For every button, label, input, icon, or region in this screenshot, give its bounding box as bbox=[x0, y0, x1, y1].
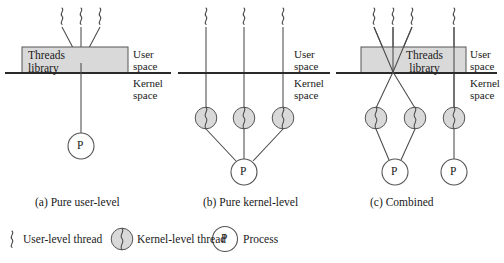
squiggle-icon bbox=[80, 8, 82, 24]
panel-caption-c: (c) Combined bbox=[370, 196, 434, 208]
user-space-line1: User bbox=[470, 48, 504, 60]
user-space-line2: space bbox=[133, 60, 179, 72]
legend-label-kernel-level-thread: Kernel-level thread bbox=[137, 233, 226, 245]
kernel-space-label: Kernel space bbox=[470, 77, 504, 102]
process-label: P bbox=[450, 165, 456, 177]
kernel-thread-circle-icon bbox=[443, 107, 465, 129]
kernel-space-line1: Kernel bbox=[133, 77, 179, 89]
threads-library-line1: Threads bbox=[406, 49, 443, 62]
squiggle-icon bbox=[243, 8, 245, 24]
squiggle-icon bbox=[373, 8, 375, 24]
kernel-thread-link-lines bbox=[376, 72, 415, 108]
process-label: P bbox=[240, 165, 246, 177]
threads-library-line1: Threads bbox=[28, 49, 65, 62]
kernel-space-line1: Kernel bbox=[294, 77, 340, 89]
user-space-line2: space bbox=[294, 60, 340, 72]
process-link-lines bbox=[206, 129, 283, 161]
user-space-label: User space bbox=[294, 48, 340, 73]
squiggle-icon bbox=[282, 8, 284, 24]
process-label: P bbox=[77, 139, 83, 151]
legend-label-user-level-thread: User-level thread bbox=[23, 233, 102, 245]
squiggle-icon bbox=[392, 8, 394, 24]
squiggle-icon bbox=[99, 8, 101, 24]
kernel-thread-circle-icon bbox=[365, 107, 387, 129]
kernel-space-line1: Kernel bbox=[470, 77, 504, 89]
squiggle-icon bbox=[453, 8, 455, 24]
legend-squiggle-icon bbox=[11, 231, 13, 247]
panel-caption-a: (a) Pure user-level bbox=[35, 196, 120, 208]
squiggle-icon bbox=[205, 8, 207, 24]
user-space-label: User space bbox=[133, 48, 179, 73]
threads-library-label: Threads library bbox=[406, 49, 443, 75]
threads-library-label: Threads library bbox=[28, 49, 65, 75]
kernel-thread-circle-icon bbox=[195, 107, 217, 129]
threads-library-line2: library bbox=[28, 62, 65, 75]
kernel-thread-circle-icon bbox=[272, 107, 294, 129]
kernel-space-line2: space bbox=[133, 89, 179, 101]
user-space-line2: space bbox=[470, 60, 504, 72]
user-thread-lines bbox=[206, 27, 283, 107]
kernel-space-label: Kernel space bbox=[133, 77, 179, 102]
kernel-space-line2: space bbox=[470, 89, 504, 101]
panel-caption-b: (b) Pure kernel-level bbox=[203, 196, 298, 208]
user-space-label: User space bbox=[470, 48, 504, 73]
threads-library-line2: library bbox=[406, 62, 443, 75]
process-label: P bbox=[391, 165, 397, 177]
legend-label-process: Process bbox=[243, 233, 278, 245]
process-link-lines bbox=[376, 129, 454, 160]
kernel-space-label: Kernel space bbox=[294, 77, 340, 102]
user-space-line1: User bbox=[294, 48, 340, 60]
user-space-line1: User bbox=[133, 48, 179, 60]
kernel-thread-circle-icon bbox=[233, 107, 255, 129]
legend-process-glyph: P bbox=[221, 232, 227, 244]
kernel-space-line2: space bbox=[294, 89, 340, 101]
kernel-thread-circle-icon bbox=[404, 107, 426, 129]
squiggle-icon bbox=[411, 8, 413, 24]
legend-kernel-thread-circle-icon bbox=[111, 228, 133, 250]
squiggle-icon bbox=[61, 8, 63, 24]
